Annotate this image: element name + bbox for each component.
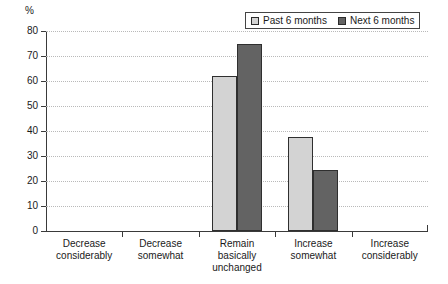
y-axis-tick-label: 70: [27, 51, 38, 61]
y-axis-tick: [41, 231, 46, 232]
y-axis-tick-label: 10: [27, 201, 38, 211]
bar-next: [237, 44, 262, 232]
x-axis-category-label: Decrease considerably: [46, 238, 122, 262]
y-axis-tick: [41, 206, 46, 207]
y-axis-tick: [41, 131, 46, 132]
legend-label-next: Next 6 months: [350, 16, 414, 26]
y-axis-tick: [41, 181, 46, 182]
plot-area: 80706050403020100: [46, 31, 428, 231]
x-axis-line: [46, 231, 428, 232]
y-axis-tick: [41, 31, 46, 32]
legend-label-past: Past 6 months: [263, 16, 327, 26]
y-axis-tick: [41, 56, 46, 57]
y-axis-tick-label: 60: [27, 76, 38, 86]
y-axis-tick-label: 20: [27, 176, 38, 186]
bar-next: [313, 170, 338, 231]
legend-swatch-past-icon: [251, 17, 259, 25]
bar-past: [212, 76, 237, 231]
bar-past: [288, 137, 313, 231]
chart-legend: Past 6 months Next 6 months: [245, 12, 420, 29]
x-axis-category-label: Remain basically unchanged: [199, 238, 275, 274]
x-axis-category-label: Increase somewhat: [275, 238, 351, 262]
x-axis-tick: [122, 231, 123, 237]
legend-item-past-6-months: Past 6 months: [251, 16, 327, 26]
x-axis-tick: [275, 231, 276, 237]
y-axis-tick-label: 80: [27, 26, 38, 36]
x-axis-tick: [199, 231, 200, 237]
y-axis-tick: [41, 106, 46, 107]
x-axis-category-label: Decrease somewhat: [122, 238, 198, 262]
legend-swatch-next-icon: [338, 17, 346, 25]
y-axis-tick-label: 30: [27, 151, 38, 161]
y-axis-tick-label: 50: [27, 101, 38, 111]
gridline: [46, 31, 428, 32]
x-axis-category-label: Increase considerably: [352, 238, 428, 262]
bar-chart: % Past 6 months Next 6 months 8070605040…: [0, 0, 448, 284]
y-axis-tick: [41, 81, 46, 82]
y-axis-unit-label: %: [25, 6, 34, 16]
y-axis-tick-label: 0: [32, 226, 38, 236]
y-axis-tick: [41, 156, 46, 157]
y-axis-tick-label: 40: [27, 126, 38, 136]
x-axis-tick: [352, 231, 353, 237]
legend-item-next-6-months: Next 6 months: [338, 16, 414, 26]
